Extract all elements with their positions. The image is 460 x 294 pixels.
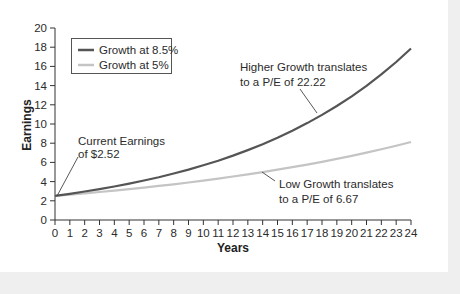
x-tick-label: 24 <box>405 227 418 239</box>
annotation-low-growth: Low Growth translates to a P/E of 6.67 <box>262 172 394 205</box>
y-tick-label: 8 <box>41 137 47 149</box>
y-tick-label: 14 <box>34 80 47 92</box>
x-tick-label: 22 <box>375 227 388 239</box>
x-axis-title: Years <box>217 241 249 255</box>
legend-label-5: Growth at 5% <box>99 59 169 71</box>
svg-text:Higher Growth translates: Higher Growth translates <box>240 61 367 73</box>
x-tick-label: 20 <box>345 227 358 239</box>
y-tick-label: 18 <box>34 41 47 53</box>
x-tick-label: 19 <box>330 227 343 239</box>
x-tick-label: 4 <box>111 227 118 239</box>
x-tick-label: 9 <box>185 227 191 239</box>
svg-text:Low Growth translates: Low Growth translates <box>279 178 394 190</box>
x-tick-label: 23 <box>390 227 403 239</box>
y-axis: 02468101214161820 <box>34 22 55 226</box>
y-tick-label: 0 <box>41 214 47 226</box>
x-tick-label: 21 <box>360 227 373 239</box>
legend-label-8-5: Growth at 8.5% <box>99 44 178 56</box>
x-tick-label: 17 <box>301 227 314 239</box>
x-tick-label: 11 <box>212 227 224 239</box>
x-tick-label: 18 <box>316 227 329 239</box>
x-tick-label: 5 <box>126 227 132 239</box>
y-tick-label: 10 <box>34 118 47 130</box>
legend: Growth at 8.5% Growth at 5% <box>72 39 179 74</box>
y-tick-label: 16 <box>34 60 47 72</box>
x-tick-label: 3 <box>96 227 102 239</box>
x-tick-label: 13 <box>241 227 254 239</box>
x-tick-label: 15 <box>271 227 284 239</box>
y-tick-label: 6 <box>41 156 47 168</box>
x-tick-label: 10 <box>197 227 210 239</box>
x-tick-label: 8 <box>170 227 176 239</box>
annotation-higher-growth: Higher Growth translates to a P/E of 22.… <box>240 61 367 113</box>
y-axis-title: Earnings <box>20 99 34 151</box>
svg-text:to a P/E of 6.67: to a P/E of 6.67 <box>279 193 358 205</box>
y-tick-label: 20 <box>34 22 47 34</box>
svg-text:to a P/E of 22.22: to a P/E of 22.22 <box>240 76 326 88</box>
y-tick-label: 4 <box>41 176 48 188</box>
y-tick-label: 2 <box>41 195 47 207</box>
x-tick-label: 1 <box>67 227 73 239</box>
svg-text:Current Earnings: Current Earnings <box>78 135 165 147</box>
y-tick-label: 12 <box>34 99 47 111</box>
x-tick-label: 16 <box>286 227 299 239</box>
x-tick-label: 12 <box>227 227 240 239</box>
x-tick-label: 6 <box>141 227 147 239</box>
svg-text:of $2.52: of $2.52 <box>78 148 120 160</box>
annotations: Current Earnings of $2.52 Higher Growth … <box>57 61 394 205</box>
earnings-growth-chart: 02468101214161820 0123456789101112131415… <box>0 0 460 294</box>
x-tick-label: 0 <box>52 227 58 239</box>
x-axis: 0123456789101112131415161718192021222324 <box>52 220 418 239</box>
x-tick-label: 14 <box>256 227 269 239</box>
x-tick-label: 7 <box>156 227 162 239</box>
x-tick-label: 2 <box>81 227 87 239</box>
